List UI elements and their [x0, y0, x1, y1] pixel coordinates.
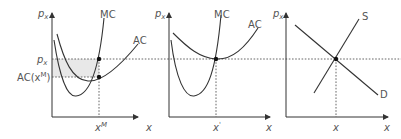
x-axis-label: x [383, 122, 390, 133]
ac-label: AC [248, 19, 262, 30]
y-axis-label: px [272, 8, 284, 21]
panel-1: px MC AC px AC(xM) xM x [17, 8, 401, 133]
panel-3: px S D x x [272, 8, 390, 133]
x-tick: x [332, 122, 339, 133]
x-prime-tick: x' [212, 121, 221, 133]
ac-point [97, 75, 101, 79]
ac-label: AC [133, 35, 147, 46]
equilibrium-point [214, 57, 218, 61]
price-point [97, 57, 101, 61]
x-axis-label: x [265, 122, 272, 133]
mc-label: MC [214, 9, 230, 20]
demand-label: D [380, 89, 388, 100]
xm-tick: xM [94, 121, 107, 133]
mc-label: MC [100, 9, 116, 20]
y-axis-label: px [37, 8, 49, 21]
price-tick: px [36, 54, 48, 67]
panel-2: px MC AC x' x [154, 8, 272, 133]
mc-curve [54, 18, 104, 96]
x-axis-label: x [145, 122, 152, 133]
supply-label: S [362, 11, 368, 22]
three-panel-diagram: px MC AC px AC(xM) xM x px MC AC x' x px… [0, 0, 401, 139]
y-axis-label: px [154, 8, 166, 21]
supply-curve [314, 19, 359, 93]
mc-curve [171, 15, 221, 96]
ac-xm-tick: AC(xM) [17, 71, 51, 83]
equilibrium-point [334, 57, 338, 61]
